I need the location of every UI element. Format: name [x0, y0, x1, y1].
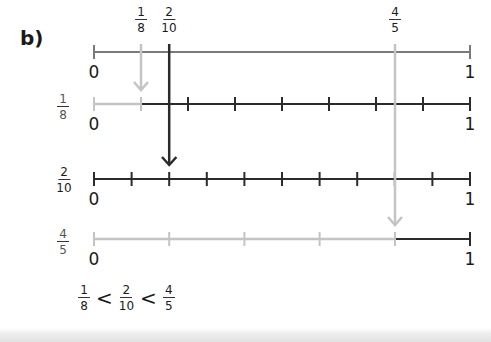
fraction-bar: [57, 106, 69, 107]
fraction-bar: [78, 297, 90, 298]
one-label-fifths: 1: [465, 251, 476, 268]
comparison-right: 4 5: [163, 284, 175, 312]
numerator: 2: [60, 166, 68, 178]
denominator: 5: [59, 244, 67, 256]
one-label-tenths: 1: [465, 191, 476, 208]
comparison-left: 1 8: [78, 284, 90, 312]
arrow-four-fifths: [388, 44, 402, 225]
row-label-fifths: 4 5: [57, 228, 69, 256]
zero-label-tenths: 0: [89, 191, 100, 208]
number-line-eighths: [94, 97, 470, 111]
denominator: 5: [165, 300, 173, 312]
one-label-eighths: 1: [465, 116, 476, 133]
comparison-statement: 1 8 < 2 10 < 4 5: [78, 284, 175, 312]
number-lines-diagram: [0, 0, 491, 342]
numerator: 1: [80, 284, 88, 296]
fraction-bar: [57, 241, 69, 242]
comparison-middle: 2 10: [119, 284, 134, 312]
zero-label-fifths: 0: [89, 251, 100, 268]
numerator: 1: [59, 93, 67, 105]
numerator: 2: [123, 284, 131, 296]
arrow-one-eighth: [134, 44, 148, 90]
numerator: 4: [165, 284, 173, 296]
bottom-shadow-band: [0, 328, 491, 342]
denominator: 8: [80, 300, 88, 312]
fraction-bar: [163, 297, 175, 298]
one-label-whole: 1: [465, 64, 476, 81]
less-than-symbol: <: [140, 288, 157, 308]
row-label-eighths: 1 8: [57, 93, 69, 121]
less-than-symbol: <: [96, 288, 113, 308]
numerator: 4: [59, 228, 67, 240]
number-line-tenths: [94, 172, 470, 186]
row-label-tenths: 2 10: [56, 166, 71, 194]
zero-label-eighths: 0: [89, 116, 100, 133]
denominator: 10: [119, 300, 134, 312]
number-line-whole: [94, 45, 470, 59]
zero-label-whole: 0: [89, 64, 100, 81]
denominator: 10: [56, 182, 71, 194]
number-line-fifths: [94, 232, 470, 246]
fraction-bar: [120, 297, 132, 298]
denominator: 8: [59, 109, 67, 121]
fraction-bar: [58, 179, 70, 180]
